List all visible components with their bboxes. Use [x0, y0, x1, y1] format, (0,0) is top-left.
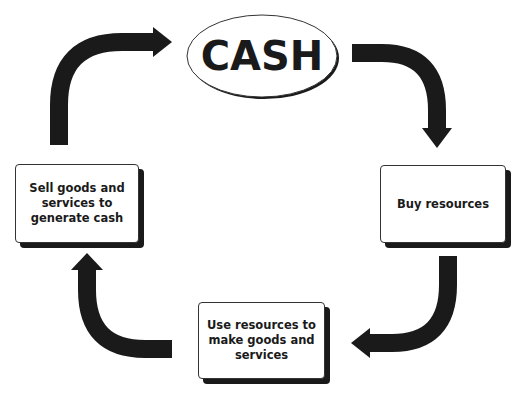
arrow-cash-to-buy-icon — [352, 53, 452, 148]
cash-node: CASH — [186, 14, 338, 98]
arrow-buy-to-use-icon — [351, 256, 448, 358]
cash-cycle-diagram: CASH Sell goods and services to generate… — [0, 0, 514, 393]
sell-goods-label: Sell goods and services to generate cash — [24, 181, 130, 226]
cash-label: CASH — [186, 14, 338, 98]
use-resources-label: Use resources to make goods and services — [207, 318, 316, 363]
arrow-use-to-sell-icon — [71, 253, 172, 349]
arrow-sell-to-cash-icon — [59, 27, 172, 145]
buy-resources-label: Buy resources — [397, 197, 489, 212]
use-resources-box: Use resources to make goods and services — [198, 302, 325, 379]
sell-goods-box: Sell goods and services to generate cash — [15, 164, 139, 243]
buy-resources-box: Buy resources — [380, 165, 506, 243]
